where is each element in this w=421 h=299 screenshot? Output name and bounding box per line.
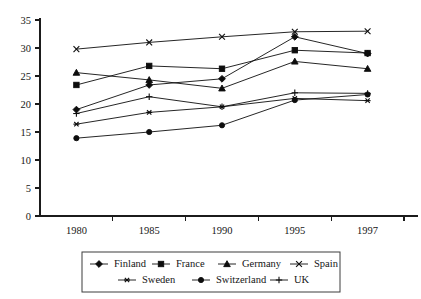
filled-circle-marker — [292, 97, 297, 102]
x-tick-label: 1997 — [357, 225, 378, 236]
chart-canvas: 05101520253035 19801985199019951997 Finl… — [0, 0, 421, 299]
series-line-spain — [76, 31, 367, 49]
x-axis: 19801985199019951997 — [40, 216, 418, 236]
filled-circle-marker — [74, 136, 79, 141]
legend-label: Sweden — [142, 274, 176, 285]
series-spain — [74, 28, 371, 52]
filled-square-marker — [365, 50, 370, 55]
legend-label: Germany — [242, 258, 282, 269]
x-tick-label: 1990 — [212, 225, 233, 236]
filled-triangle-marker — [292, 58, 299, 64]
legend-label: Spain — [314, 258, 339, 269]
filled-square-marker — [74, 82, 79, 87]
filled-square-marker — [292, 48, 297, 53]
legend-label: UK — [294, 274, 310, 285]
filled-circle-marker — [198, 277, 203, 282]
y-tick-label: 25 — [21, 71, 32, 82]
filled-circle-marker — [147, 129, 152, 134]
y-tick-label: 0 — [26, 211, 31, 222]
y-tick-label: 30 — [21, 43, 32, 54]
series-layer — [73, 28, 371, 140]
filled-square-marker — [219, 66, 224, 71]
filled-triangle-marker — [73, 69, 80, 75]
filled-square-marker — [158, 261, 163, 266]
legend-label: Finland — [114, 258, 147, 269]
series-line-switzerland — [76, 94, 367, 138]
x-tick-label: 1995 — [284, 225, 305, 236]
y-tick-label: 35 — [21, 15, 32, 26]
y-axis: 05101520253035 — [21, 15, 41, 222]
series-uk — [73, 90, 371, 117]
x-tick-label: 1985 — [139, 225, 160, 236]
filled-diamond-marker — [219, 75, 226, 82]
series-line-sweden — [76, 98, 367, 124]
filled-square-marker — [147, 63, 152, 68]
y-tick-label: 15 — [21, 127, 32, 138]
chart-legend: FinlandFranceGermanySpainSwedenSwitzerla… — [82, 252, 340, 292]
line-chart: 05101520253035 19801985199019951997 Finl… — [0, 0, 421, 299]
series-sweden — [73, 96, 370, 126]
legend-label: Switzerland — [216, 274, 267, 285]
series-line-uk — [76, 93, 367, 114]
y-tick-label: 5 — [26, 183, 31, 194]
filled-circle-marker — [219, 123, 224, 128]
y-tick-label: 20 — [21, 99, 32, 110]
x-tick-label: 1980 — [66, 225, 87, 236]
y-tick-label: 10 — [21, 155, 32, 166]
legend-label: France — [176, 258, 205, 269]
